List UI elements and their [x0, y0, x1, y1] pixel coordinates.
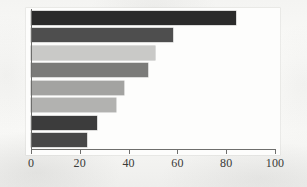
bar-6 — [31, 98, 116, 112]
bar-4 — [31, 63, 148, 77]
x-tick-label-40: 40 — [109, 156, 149, 170]
bar-7 — [31, 116, 97, 130]
chart-figure: 020406080100 — [0, 0, 307, 187]
x-tick-label-0: 0 — [11, 156, 51, 170]
x-tick-60 — [177, 150, 178, 154]
x-tick-80 — [226, 150, 227, 154]
x-tick-label-60: 60 — [157, 156, 197, 170]
bar-5 — [31, 81, 124, 95]
bar-1 — [31, 11, 236, 25]
bar-8 — [31, 133, 87, 147]
x-tick-20 — [80, 150, 81, 154]
bar-plot-area — [31, 9, 275, 149]
x-tick-label-20: 20 — [60, 156, 100, 170]
x-tick-0 — [31, 150, 32, 154]
x-tick-100 — [275, 150, 276, 154]
x-tick-label-80: 80 — [206, 156, 246, 170]
bar-3 — [31, 46, 155, 60]
bar-2 — [31, 28, 173, 42]
y-axis-line — [31, 9, 32, 150]
x-axis-line — [31, 149, 276, 150]
x-tick-40 — [129, 150, 130, 154]
x-tick-label-100: 100 — [255, 156, 295, 170]
